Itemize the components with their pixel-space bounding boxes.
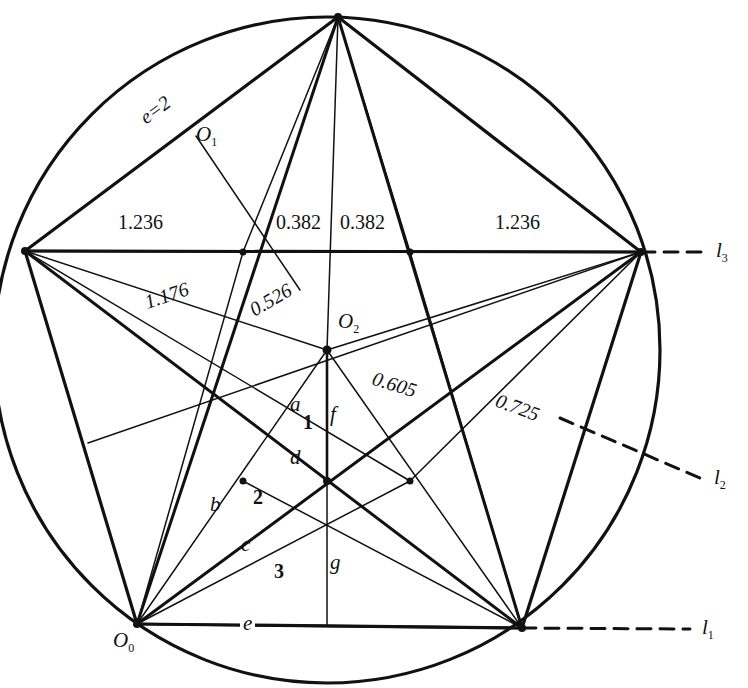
segment-label-f: f bbox=[330, 404, 336, 425]
point-label-O0: O0 bbox=[113, 630, 134, 654]
segment-label-e: e bbox=[240, 613, 255, 634]
axis-label-l2: l2 bbox=[714, 467, 726, 491]
ray-l1 bbox=[522, 628, 690, 629]
measure-0382-right: 0.382 bbox=[340, 212, 385, 232]
point-label-O1: O1 bbox=[196, 124, 217, 148]
region-label-1: 1 bbox=[303, 412, 313, 432]
segment-label-d: d bbox=[290, 447, 301, 468]
region-label-2: 2 bbox=[253, 487, 263, 507]
region-label-3: 3 bbox=[274, 561, 284, 581]
pentagram-diagonals bbox=[25, 17, 641, 628]
axis-label-l1: l1 bbox=[702, 617, 714, 641]
segment-label-c: c bbox=[241, 534, 250, 555]
measure-1236-right: 1.236 bbox=[495, 212, 540, 232]
segment-label-a: a bbox=[290, 394, 301, 415]
horizontal-chord bbox=[25, 251, 641, 252]
point-label-O2: O2 bbox=[338, 311, 359, 335]
axis-label-l3: l3 bbox=[716, 240, 728, 264]
measure-0382-left: 0.382 bbox=[276, 212, 321, 232]
geometry-svg bbox=[0, 0, 748, 688]
segment-label-g: g bbox=[330, 552, 341, 573]
segment-label-b: b bbox=[210, 494, 221, 515]
measure-1236-left: 1.236 bbox=[118, 212, 163, 232]
figure-canvas: e=2 O1 1.236 0.382 0.382 1.236 1.176 0.5… bbox=[0, 0, 748, 688]
extension-rays bbox=[522, 252, 706, 629]
ray-l2 bbox=[560, 418, 700, 478]
